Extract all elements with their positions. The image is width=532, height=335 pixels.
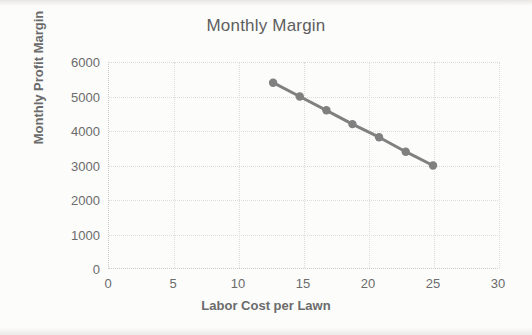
chart-container: Monthly Margin Monthly Profit Margin Lab… (0, 0, 532, 335)
y-tick-label: 2000 (48, 193, 100, 208)
y-tick-label: 3000 (48, 158, 100, 173)
x-tick-label: 15 (283, 276, 323, 291)
x-tick-label: 10 (218, 276, 258, 291)
x-tick-label: 5 (153, 276, 193, 291)
y-tick-label: 1000 (48, 227, 100, 242)
y-tick-label: 4000 (48, 124, 100, 139)
x-tick-label: 0 (88, 276, 128, 291)
x-tick-label: 20 (348, 276, 388, 291)
y-tick-label: 5000 (48, 89, 100, 104)
y-tick-label: 6000 (48, 55, 100, 70)
x-tick-label: 30 (478, 276, 518, 291)
y-tick-label: 0 (48, 262, 100, 277)
x-tick-label: 25 (413, 276, 453, 291)
axis-tick-labels: 0100020003000400050006000051015202530 (0, 0, 532, 335)
